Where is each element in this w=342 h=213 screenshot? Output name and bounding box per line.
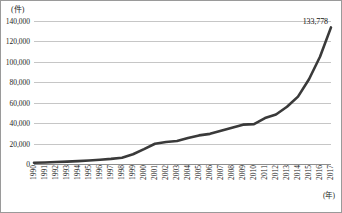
y-axis-tick-label: 120,000 — [6, 37, 30, 46]
y-axis-tick-label: 60,000 — [9, 98, 30, 107]
x-axis-tick-label: 1997 — [107, 165, 115, 180]
x-axis-tick-label: 2004 — [184, 165, 192, 180]
x-axis-tick-label: 1991 — [41, 165, 49, 180]
x-axis-tick-label: 2003 — [173, 165, 181, 180]
x-axis-tick-label: 2000 — [140, 165, 148, 180]
x-axis-tick-label: 2005 — [195, 165, 203, 180]
x-axis-tick-label: 2007 — [217, 165, 225, 180]
x-axis-tick-label: 1992 — [52, 165, 60, 180]
x-axis-tick-label: 1993 — [63, 165, 71, 180]
x-axis-tick-label: 1996 — [96, 165, 104, 180]
x-axis-tick-label: 2006 — [206, 165, 214, 180]
x-axis-tick-label: 2010 — [250, 165, 258, 180]
x-axis-tick-label: 2013 — [283, 165, 291, 180]
x-axis-tick-label: 1995 — [85, 165, 93, 180]
data-label-final-value: 133,778 — [303, 17, 328, 26]
y-axis-tick-label: 80,000 — [9, 78, 30, 87]
y-axis-tick-label: 40,000 — [9, 119, 30, 128]
chart-figure: (件) 140,000120,000100,00080,00060,00040,… — [0, 0, 342, 213]
y-axis-tick-label: 100,000 — [6, 57, 30, 66]
x-axis-tick-labels: 1990199119921993199419951996199719981999… — [34, 165, 331, 205]
x-axis-tick-label: 2017 — [327, 165, 335, 180]
y-axis-unit-label: (件) — [11, 3, 24, 14]
x-axis-tick-label: 1994 — [74, 165, 82, 180]
x-axis-tick-label: 1990 — [30, 165, 38, 180]
x-axis-tick-label: 2002 — [162, 165, 170, 180]
x-axis-tick-label: 2016 — [316, 165, 324, 180]
y-axis-tick-label: 140,000 — [6, 17, 30, 26]
x-axis-tick-label: 2012 — [272, 165, 280, 180]
series-polyline — [34, 27, 331, 162]
x-axis-tick-label: 1999 — [129, 165, 137, 180]
x-axis-tick-label: 2014 — [294, 165, 302, 180]
x-axis-tick-label: 2015 — [305, 165, 313, 180]
x-axis-tick-label: 2001 — [151, 165, 159, 180]
x-axis-tick-label: 1998 — [118, 165, 126, 180]
plot-area: 140,000120,000100,00080,00060,00040,0002… — [34, 21, 331, 164]
x-axis-tick-label: 2011 — [261, 165, 269, 180]
x-axis-tick-label: 2009 — [239, 165, 247, 180]
x-axis-tick-label: 2008 — [228, 165, 236, 180]
x-axis-unit-label: (年) — [323, 189, 335, 200]
y-axis-tick-label: 20,000 — [9, 139, 30, 148]
line-series — [34, 21, 331, 164]
